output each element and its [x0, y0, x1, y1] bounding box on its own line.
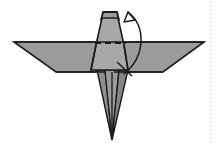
fold-arrow-head-icon — [124, 12, 135, 22]
origami-diagram-canvas — [0, 0, 219, 145]
origami-figure: Origami fold step diagram — [0, 0, 219, 145]
body-panel — [91, 18, 128, 70]
